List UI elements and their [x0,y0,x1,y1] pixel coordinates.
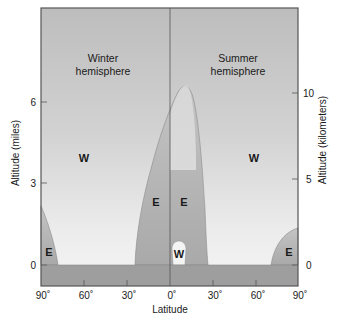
summer-polar-easterlies-label: E [285,246,292,258]
x-tick-60-summer: 60˚ [251,290,265,301]
x-tick-30-winter: 30˚ [122,290,136,301]
winter-hemisphere-title-line2: hemisphere [76,65,131,77]
summer-westerlies-label: W [249,152,260,164]
x-tick-60-winter: 60˚ [79,290,93,301]
left-y-axis-title: Altitude (miles) [10,120,21,186]
x-tick-90-winter: 90˚ [36,290,50,301]
summer-tropical-easterlies-label: E [180,196,187,208]
right-y-axis-title: Altitude (kilometers) [317,96,328,184]
right-y-tick-10: 10 [303,88,315,99]
summer-hemisphere-title-line1: Summer [218,52,258,64]
x-tick-0: 0˚ [168,290,177,301]
summer-hemisphere-title-line2: hemisphere [211,65,266,77]
right-y-tick-0: 0 [306,260,312,271]
left-y-tick-6: 6 [30,97,36,108]
x-axis-title: Latitude [152,304,188,315]
equatorial-westerlies-label: W [174,248,185,260]
left-y-tick-3: 3 [30,178,36,189]
winter-tropical-easterlies-label: E [152,196,159,208]
x-tick-30-summer: 30˚ [208,290,222,301]
wind-diagram: Winter hemisphere Summer hemisphere W W … [0,0,337,324]
x-tick-90-summer: 90˚ [293,290,307,301]
winter-polar-easterlies-label: E [45,246,52,258]
winter-westerlies-label: W [79,152,90,164]
ground-band [41,265,298,286]
left-y-tick-0: 0 [30,260,36,271]
right-y-tick-5: 5 [306,174,312,185]
winter-hemisphere-title-line1: Winter [88,52,119,64]
